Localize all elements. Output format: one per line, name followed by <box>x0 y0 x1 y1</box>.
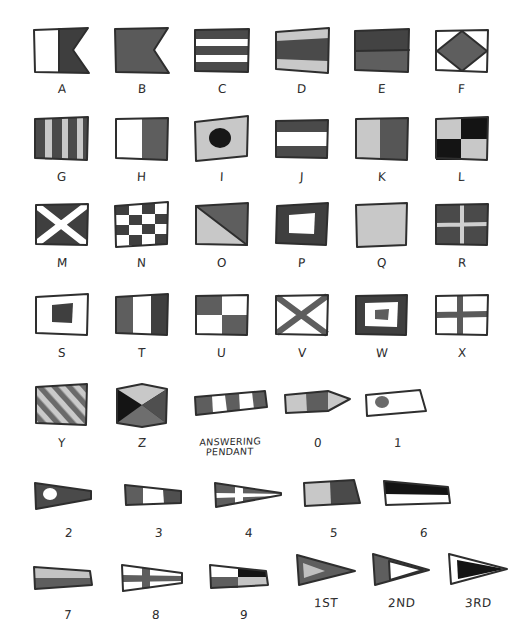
flag-row-numerals-2-6: 2 3 4 <box>0 466 512 540</box>
flag-b <box>102 22 182 80</box>
pennant-7 <box>24 548 112 606</box>
flag-label-repeater-2nd: 2ND <box>388 597 416 610</box>
repeater-3rd <box>440 548 512 594</box>
flag-label-o: O <box>217 257 228 270</box>
flag-cell-n: N <box>102 196 182 270</box>
flag-m <box>22 196 102 254</box>
flag-cell-r: R <box>422 196 502 270</box>
flag-cell-pennant-1: 1 <box>358 376 438 450</box>
flag-s <box>22 286 102 344</box>
flag-cell-h: H <box>102 110 182 184</box>
flag-i <box>182 110 262 168</box>
flag-label-pennant-7: 7 <box>64 609 73 622</box>
flag-label-m: M <box>56 257 67 270</box>
pennant-9 <box>200 548 288 606</box>
flag-row-letters-s-x: S T U <box>0 286 512 360</box>
flag-cell-repeater-2nd: 2ND <box>364 548 440 610</box>
flag-a <box>22 22 102 80</box>
flag-cell-pennant-4: 4 <box>204 466 294 540</box>
flag-label-c: C <box>217 83 227 96</box>
flag-label-g: G <box>57 171 67 184</box>
flag-cell-e: E <box>342 22 422 96</box>
pennant-6 <box>374 466 474 524</box>
flag-j <box>262 110 342 168</box>
flag-row-numerals-7-9-repeaters: 7 8 <box>0 548 512 622</box>
flag-cell-pennant-2: 2 <box>24 466 114 540</box>
pennant-3 <box>114 466 204 524</box>
flag-label-a: A <box>57 83 66 96</box>
flag-label-pennant-8: 8 <box>152 609 161 622</box>
flag-label-pennant-4: 4 <box>245 527 254 540</box>
flag-label-x: X <box>457 347 466 360</box>
flag-label-answering-pendant: ANSWERING PENDANT <box>181 436 278 458</box>
flag-f <box>422 22 502 80</box>
flag-label-pennant-5: 5 <box>330 527 339 540</box>
flag-x <box>422 286 502 344</box>
flag-w <box>342 286 422 344</box>
flag-answering-pendant <box>182 376 278 434</box>
flag-row-letters-m-r: M N <box>0 196 512 270</box>
flag-cell-l: L <box>422 110 502 184</box>
flag-cell-z: Z <box>102 376 182 450</box>
pennant-5 <box>294 466 374 524</box>
flag-label-h: H <box>137 171 147 184</box>
flag-e <box>342 22 422 80</box>
flag-cell-pennant-0: 0 <box>278 376 358 450</box>
flag-cell-b: B <box>102 22 182 96</box>
flag-v <box>262 286 342 344</box>
flag-t <box>102 286 182 344</box>
flag-label-i: I <box>220 171 225 184</box>
pennant-4 <box>204 466 294 524</box>
flag-k <box>342 110 422 168</box>
flag-label-pennant-1: 1 <box>394 437 403 450</box>
flag-label-pennant-0: 0 <box>314 437 323 450</box>
flag-label-l: L <box>458 171 466 184</box>
flag-label-k: K <box>377 171 386 184</box>
pennant-0 <box>278 376 358 434</box>
flag-cell-k: K <box>342 110 422 184</box>
flag-cell-a: A <box>22 22 102 96</box>
flag-cell-y: Y <box>22 376 102 450</box>
flag-label-f: F <box>458 83 466 96</box>
flag-label-p: P <box>298 257 306 270</box>
flag-cell-f: F <box>422 22 502 96</box>
flag-cell-o: O <box>182 196 262 270</box>
flag-cell-pennant-3: 3 <box>114 466 204 540</box>
flag-row-letters-a-f: A B C <box>0 22 512 96</box>
flag-q <box>342 196 422 254</box>
flag-z <box>102 376 182 434</box>
flag-cell-w: W <box>342 286 422 360</box>
flag-cell-pennant-7: 7 <box>24 548 112 622</box>
flag-n <box>102 196 182 254</box>
flag-cell-c: C <box>182 22 262 96</box>
flag-l <box>422 110 502 168</box>
flag-r <box>422 196 502 254</box>
flag-cell-s: S <box>22 286 102 360</box>
flag-cell-i: I <box>182 110 262 184</box>
flag-cell-t: T <box>102 286 182 360</box>
flag-g <box>22 110 102 168</box>
flag-o <box>182 196 262 254</box>
flag-label-z: Z <box>137 437 146 450</box>
flag-label-pennant-3: 3 <box>155 527 164 540</box>
flag-cell-g: G <box>22 110 102 184</box>
flag-cell-d: D <box>262 22 342 96</box>
flag-label-n: N <box>137 257 147 270</box>
flag-cell-pennant-5: 5 <box>294 466 374 540</box>
flag-label-pennant-6: 6 <box>420 527 429 540</box>
flag-cell-repeater-3rd: 3RD <box>440 548 512 610</box>
flag-cell-pennant-9: 9 <box>200 548 288 622</box>
pennant-2 <box>24 466 114 524</box>
flag-row-y-z-numerals: Y Z <box>0 376 512 457</box>
flag-label-t: T <box>138 347 146 360</box>
flag-p <box>262 196 342 254</box>
flag-cell-v: V <box>262 286 342 360</box>
flag-cell-repeater-1st: 1ST <box>288 548 364 610</box>
flag-h <box>102 110 182 168</box>
flag-cell-m: M <box>22 196 102 270</box>
pennant-8 <box>112 548 200 606</box>
repeater-1st <box>288 548 364 594</box>
flag-d <box>262 22 342 80</box>
flag-cell-x: X <box>422 286 502 360</box>
